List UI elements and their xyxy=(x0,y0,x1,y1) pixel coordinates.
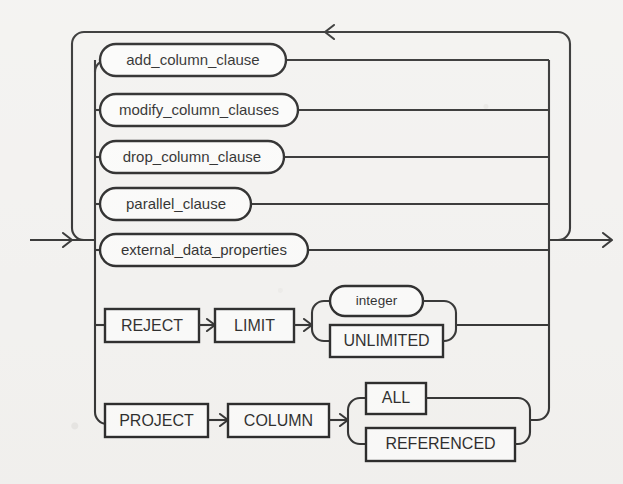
all-merge-rail xyxy=(426,398,530,420)
nonterminal-label-external_data_properties: external_data_properties xyxy=(121,241,287,258)
row-parallel-clause: parallel_clause xyxy=(95,188,549,220)
reject-choice-split-rail xyxy=(312,301,330,341)
row-drop-column-clause: drop_column_clause xyxy=(95,141,549,173)
right-merge-spine xyxy=(530,60,549,420)
keyword-label-column: COLUMN xyxy=(244,412,313,429)
row-add-column-clause: add_column_clause xyxy=(95,44,549,76)
row-external-data-properties: external_data_properties xyxy=(95,234,549,266)
row-reject-limit: REJECT LIMIT integer UNLIMITED xyxy=(95,286,549,357)
keyword-label-project: PROJECT xyxy=(119,412,194,429)
row-modify-column-clauses: modify_column_clauses xyxy=(95,94,549,126)
keyword-label-all: ALL xyxy=(382,389,411,406)
keyword-label-reject: REJECT xyxy=(121,317,183,334)
nonterminal-label-drop_column_clause: drop_column_clause xyxy=(123,148,261,165)
keyword-label-limit: LIMIT xyxy=(234,317,275,334)
unlimited-merge-rail xyxy=(443,325,456,341)
exit-line-group xyxy=(549,233,612,247)
keyword-label-referenced: REFERENCED xyxy=(385,435,495,452)
project-choice-split-rail xyxy=(348,398,366,444)
integer-merge-rail xyxy=(423,301,456,325)
nonterminal-label-modify_column_clauses: modify_column_clauses xyxy=(119,101,279,118)
nonterminal-label-parallel_clause: parallel_clause xyxy=(126,195,226,212)
row-project-column: PROJECT COLUMN ALL REFERENCED xyxy=(105,383,530,461)
referenced-merge-rail xyxy=(515,420,530,444)
syntax-diagram-page: add_column_clause modify_column_clauses … xyxy=(0,0,623,484)
keyword-label-unlimited: UNLIMITED xyxy=(343,332,429,349)
nonterminal-label-integer: integer xyxy=(356,293,398,308)
nonterminal-label-add_column_clause: add_column_clause xyxy=(126,51,259,68)
railroad-diagram-canvas: add_column_clause modify_column_clauses … xyxy=(0,0,623,484)
